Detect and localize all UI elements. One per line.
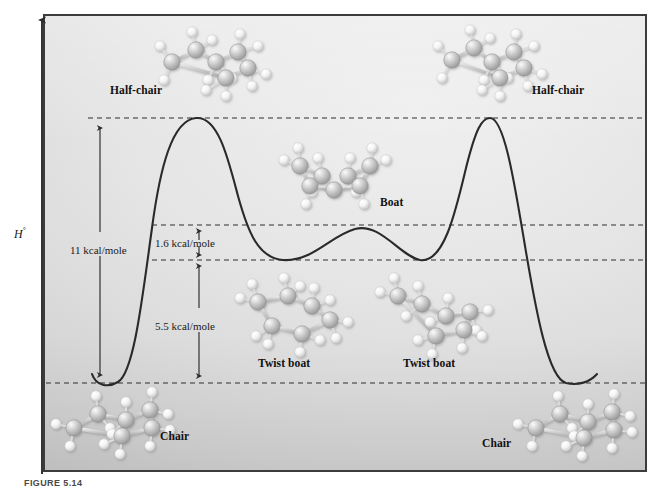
molecule-chair-left	[51, 387, 175, 459]
label-boat: Boat	[380, 196, 403, 208]
molecule-boat	[279, 143, 391, 209]
molecule-twist-boat-left	[235, 273, 353, 357]
molecule-half-chair-left	[155, 27, 271, 101]
molecule-twist-boat-right	[375, 273, 493, 359]
figure-caption: FIGURE 5.14	[24, 478, 82, 488]
molecule-half-chair-right	[433, 25, 547, 101]
label-chair-right: Chair	[482, 437, 511, 449]
molecule-chair-right	[513, 389, 637, 461]
figure-container: H°	[0, 0, 659, 488]
label-twist-boat-right: Twist boat	[403, 357, 455, 369]
energy-label-5-5-kcal: 5.5 kcal/mole	[155, 320, 215, 332]
energy-label-11-kcal: 11 kcal/mole	[70, 244, 127, 256]
label-half-chair-right: Half-chair	[532, 84, 584, 96]
label-chair-left: Chair	[160, 430, 189, 442]
label-half-chair-left: Half-chair	[110, 84, 162, 96]
label-twist-boat-left: Twist boat	[258, 357, 310, 369]
energy-label-1-6-kcal: 1.6 kcal/mole	[155, 237, 215, 249]
